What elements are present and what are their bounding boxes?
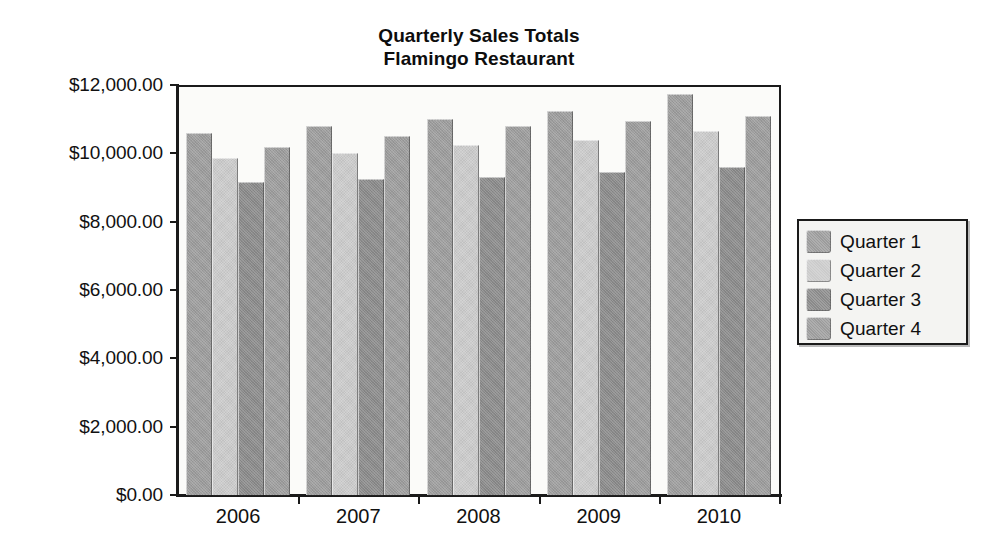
bar: [186, 133, 212, 495]
bar: [212, 158, 238, 495]
legend-swatch-icon: [806, 288, 831, 311]
legend-swatch-icon: [806, 259, 831, 282]
bar: [505, 126, 531, 495]
legend-item-label: Quarter 3: [840, 289, 921, 311]
legend-item[interactable]: Quarter 2: [806, 256, 966, 285]
bar: [358, 179, 384, 495]
legend-item-label: Quarter 2: [840, 260, 921, 282]
y-axis-tick-label: $4,000.00: [79, 347, 163, 369]
x-axis-tick-mark: [659, 495, 661, 504]
bar: [479, 177, 505, 495]
bar: [745, 116, 771, 495]
bar: [693, 131, 719, 495]
bar: [384, 136, 410, 495]
y-axis-tick-mark: [170, 152, 178, 154]
bar: [667, 94, 693, 495]
chart-title: Quarterly Sales Totals Flamingo Restaura…: [178, 24, 780, 70]
x-axis-tick-label: 2008: [456, 505, 501, 528]
legend-item[interactable]: Quarter 1: [806, 227, 966, 256]
bar: [332, 153, 358, 495]
bar: [625, 121, 651, 495]
x-axis-tick-mark: [539, 495, 541, 504]
legend: Quarter 1Quarter 2Quarter 3Quarter 4: [797, 219, 968, 345]
bar: [573, 140, 599, 495]
y-axis-tick-mark: [170, 221, 178, 223]
chart-title-line-2: Flamingo Restaurant: [178, 47, 780, 70]
x-axis-tick-label: 2010: [697, 505, 742, 528]
bar: [599, 172, 625, 495]
legend-swatch-icon: [806, 230, 831, 253]
bar: [427, 119, 453, 495]
bar: [547, 111, 573, 495]
chart-title-line-1: Quarterly Sales Totals: [378, 25, 579, 46]
bar: [264, 147, 290, 496]
x-axis-tick-mark: [779, 495, 781, 504]
y-axis-tick-label: $12,000.00: [69, 74, 163, 96]
y-axis-tick-mark: [170, 289, 178, 291]
y-axis-tick-label: $8,000.00: [79, 211, 163, 233]
x-axis-tick-label: 2007: [336, 505, 381, 528]
y-axis-tick-mark: [170, 84, 178, 86]
x-axis-tick-mark: [418, 495, 420, 504]
legend-item-label: Quarter 1: [840, 231, 921, 253]
legend-item[interactable]: Quarter 3: [806, 285, 966, 314]
chart-figure: Quarterly Sales Totals Flamingo Restaura…: [0, 0, 993, 556]
y-axis-tick-label: $2,000.00: [79, 416, 163, 438]
bar: [306, 126, 332, 495]
legend-item[interactable]: Quarter 4: [806, 314, 966, 343]
x-axis-tick-label: 2009: [576, 505, 621, 528]
x-axis-tick-label: 2006: [216, 505, 261, 528]
legend-item-label: Quarter 4: [840, 318, 921, 340]
bar: [453, 145, 479, 495]
bar: [719, 167, 745, 495]
y-axis-tick-mark: [170, 357, 178, 359]
y-axis-tick-label: $10,000.00: [69, 142, 163, 164]
x-axis-tick-mark: [298, 495, 300, 504]
y-axis-tick-mark: [170, 426, 178, 428]
y-axis-tick-label: $6,000.00: [79, 279, 163, 301]
y-axis-tick-label: $0.00: [116, 484, 163, 506]
legend-swatch-icon: [806, 317, 831, 340]
bar: [238, 182, 264, 495]
y-axis-tick-mark: [170, 494, 178, 496]
